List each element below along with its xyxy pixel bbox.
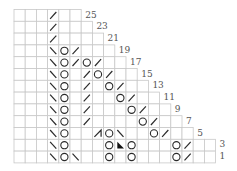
chart-cell	[92, 45, 103, 57]
chart-cell	[36, 104, 47, 116]
chart-cell	[160, 139, 171, 151]
chart-cell	[14, 10, 25, 22]
chart-cell	[126, 128, 137, 140]
chart-cell	[81, 128, 92, 140]
chart-cell	[115, 57, 126, 69]
row-label: 9	[175, 105, 181, 114]
chart-cell	[14, 139, 25, 151]
chart-cell	[25, 80, 36, 92]
chart-cell	[36, 92, 47, 104]
knitting-chart	[0, 0, 237, 171]
row-label: 25	[85, 11, 96, 20]
chart-cell	[137, 92, 148, 104]
chart-cell	[171, 128, 182, 140]
chart-cell	[92, 151, 103, 163]
row-label: 5	[197, 129, 203, 138]
chart-cell	[70, 104, 81, 116]
chart-cell	[59, 10, 70, 22]
chart-cell	[36, 128, 47, 140]
chart-cell	[70, 92, 81, 104]
row-label: 17	[130, 58, 141, 67]
chart-cell	[25, 45, 36, 57]
chart-cell	[70, 128, 81, 140]
chart-cell	[92, 116, 103, 128]
row-label: 23	[96, 22, 107, 31]
chart-cell	[81, 45, 92, 57]
chart-row	[14, 57, 126, 69]
chart-cell	[25, 92, 36, 104]
chart-cell	[204, 139, 215, 151]
chart-cell	[160, 116, 171, 128]
chart-cell	[148, 151, 159, 163]
chart-cell	[70, 80, 81, 92]
chart-cell	[14, 104, 25, 116]
chart-cell	[70, 21, 81, 33]
chart-cell	[92, 104, 103, 116]
chart-cell	[14, 21, 25, 33]
chart-row	[14, 151, 216, 163]
chart-row	[14, 33, 104, 45]
chart-cell	[104, 45, 115, 57]
chart-cell	[14, 151, 25, 163]
chart-cell	[14, 45, 25, 57]
chart-row	[14, 21, 92, 33]
row-label: 15	[141, 70, 152, 79]
chart-cell	[36, 45, 47, 57]
chart-cell	[59, 21, 70, 33]
row-label: 3	[220, 140, 226, 149]
chart-cell	[115, 104, 126, 116]
chart-cell	[70, 10, 81, 22]
chart-row	[14, 92, 160, 104]
chart-cell	[81, 33, 92, 45]
chart-cell	[36, 21, 47, 33]
chart-row	[14, 128, 193, 140]
chart-row	[14, 69, 137, 81]
chart-cell	[115, 69, 126, 81]
chart-cell	[25, 69, 36, 81]
chart-cell	[126, 80, 137, 92]
chart-cell	[160, 151, 171, 163]
chart-cell	[14, 80, 25, 92]
chart-cell	[104, 116, 115, 128]
chart-cell	[36, 57, 47, 69]
chart-cell	[36, 139, 47, 151]
chart-cell	[70, 139, 81, 151]
chart-cell	[81, 21, 92, 33]
chart-cell	[25, 21, 36, 33]
chart-cell	[25, 57, 36, 69]
chart-cell	[59, 33, 70, 45]
chart-cell	[160, 104, 171, 116]
row-label: 13	[152, 81, 163, 90]
chart-cell	[92, 92, 103, 104]
chart-cell	[137, 151, 148, 163]
chart-cell	[148, 92, 159, 104]
chart-cell	[115, 116, 126, 128]
chart-cell	[25, 151, 36, 163]
chart-cell	[137, 139, 148, 151]
row-label: 11	[164, 93, 175, 102]
chart-cell	[182, 128, 193, 140]
chart-cell	[36, 69, 47, 81]
chart-cell	[137, 128, 148, 140]
chart-cell	[104, 104, 115, 116]
chart-cell	[14, 128, 25, 140]
chart-cell	[92, 33, 103, 45]
chart-cell	[25, 104, 36, 116]
chart-cell	[204, 151, 215, 163]
chart-cell	[148, 104, 159, 116]
chart-cell	[148, 139, 159, 151]
chart-cell	[104, 57, 115, 69]
chart-cell	[36, 151, 47, 163]
chart-cell	[14, 33, 25, 45]
chart-cell	[25, 139, 36, 151]
chart-cell	[25, 10, 36, 22]
chart-cell	[14, 69, 25, 81]
chart-cell	[36, 33, 47, 45]
chart-cell	[81, 151, 92, 163]
chart-cell	[70, 69, 81, 81]
chart-cell	[36, 10, 47, 22]
row-label: 1	[220, 152, 226, 161]
row-label: 7	[186, 117, 192, 126]
chart-cell	[137, 80, 148, 92]
chart-cell	[126, 69, 137, 81]
